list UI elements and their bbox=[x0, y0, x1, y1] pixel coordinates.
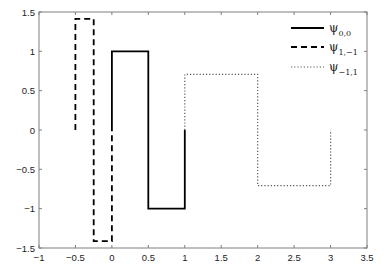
x-tick-label: 1 bbox=[182, 252, 187, 263]
y-tick-label: 0.5 bbox=[22, 85, 35, 96]
x-tick-label: 3.5 bbox=[360, 252, 373, 263]
y-tick-label: −1 bbox=[24, 203, 35, 214]
y-axis-tick-labels: 1.510.50−0.5−1−1.5 bbox=[16, 7, 35, 254]
y-tick-label: −0.5 bbox=[16, 164, 35, 175]
chart: −1−0.500.511.522.533.5 1.510.50−0.5−1−1.… bbox=[0, 0, 392, 277]
x-tick-label: 0.5 bbox=[142, 252, 155, 263]
y-tick-label: −1.5 bbox=[16, 243, 35, 254]
x-tick-label: 2 bbox=[255, 252, 260, 263]
y-tick-label: 1 bbox=[30, 46, 35, 57]
x-tick-label: 0 bbox=[109, 252, 114, 263]
y-tick-label: 0 bbox=[30, 125, 35, 136]
x-tick-label: 3 bbox=[328, 252, 333, 263]
x-axis-tick-labels: −1−0.500.511.522.533.5 bbox=[34, 252, 374, 263]
x-tick-label: −0.5 bbox=[66, 252, 85, 263]
plot-area bbox=[39, 12, 367, 248]
x-tick-label: 2.5 bbox=[288, 252, 301, 263]
x-tick-label: 1.5 bbox=[215, 252, 228, 263]
x-tick-label: −1 bbox=[34, 252, 45, 263]
y-tick-label: 1.5 bbox=[22, 7, 35, 18]
